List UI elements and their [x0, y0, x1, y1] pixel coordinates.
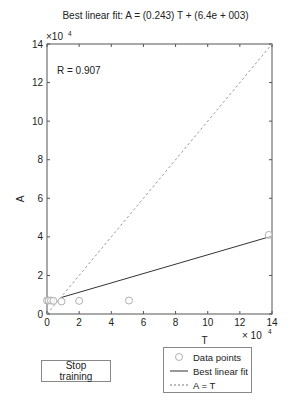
svg-text:4: 4 [68, 30, 72, 37]
best-fit-line [61, 236, 272, 297]
x-tick-label: 10 [202, 317, 214, 328]
y-tick-label: 4 [37, 231, 43, 242]
y-tick-label: 12 [32, 77, 44, 88]
y-axis-label: A [15, 195, 26, 202]
r-value-annotation: R = 0.907 [57, 65, 101, 76]
x-tick-label: 8 [173, 317, 179, 328]
x-tick-label: 4 [109, 317, 115, 328]
legend-item-data-points: Data points [164, 350, 251, 364]
x-tick-label: 12 [234, 317, 246, 328]
circle-marker-icon [167, 352, 191, 362]
y-exponent-label: ×10 [46, 31, 63, 42]
legend-item-identity: A = T [164, 378, 251, 392]
y-tick-label: 10 [32, 116, 44, 127]
y-tick-label: 6 [37, 193, 43, 204]
y-tick-label: 14 [32, 39, 44, 50]
axes: 0246810121402468101214×104× 104TAR = 0.9… [15, 30, 278, 346]
x-tick-label: 2 [76, 317, 82, 328]
y-tick-label: 8 [37, 154, 43, 165]
x-tick-label: 14 [266, 317, 278, 328]
data-point [76, 297, 83, 304]
legend-item-best-fit: Best linear fit [164, 364, 251, 378]
svg-text:4: 4 [268, 328, 272, 335]
x-exponent-label: × 10 [242, 330, 262, 341]
identity-line [47, 44, 272, 314]
x-tick-label: 6 [141, 317, 147, 328]
plot-area: 0246810121402468101214×104× 104TAR = 0.9… [0, 0, 291, 406]
x-tick-label: 0 [44, 317, 50, 328]
stop-training-button[interactable]: Stop training [41, 360, 111, 382]
dashed-line-icon [167, 382, 191, 388]
y-tick-label: 0 [37, 309, 43, 320]
data-point [125, 297, 132, 304]
x-axis-label: T [201, 335, 207, 346]
data-point [265, 231, 272, 238]
solid-line-icon [167, 368, 191, 374]
legend: Data points Best linear fit A = T [163, 347, 252, 393]
y-tick-label: 2 [37, 270, 43, 281]
data-point [50, 297, 57, 304]
data-point [58, 298, 65, 305]
